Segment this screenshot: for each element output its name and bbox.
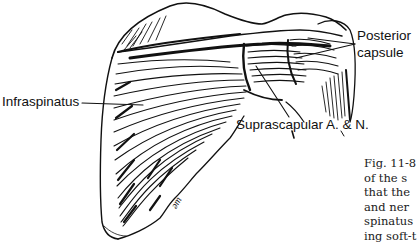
- posterior-capsule-label: Posterior capsule: [357, 27, 411, 61]
- caption-line: Fig. 11-8: [364, 156, 419, 171]
- spine-lower-edge: [118, 30, 342, 52]
- posterior-capsule-label-line1: Posterior: [357, 27, 411, 44]
- caption-line: of the s: [364, 171, 419, 186]
- caption-line: spinatus: [364, 214, 419, 229]
- figure-caption: Fig. 11-8 of the s that the and ner spin…: [364, 156, 419, 244]
- suprascapular-label: Suprascapular A. & N.: [236, 118, 369, 132]
- suprascapular-leader: [256, 66, 289, 117]
- scapula-medial-border: [100, 58, 118, 239]
- caption-line: that the: [364, 185, 419, 200]
- caption-line: ing soft-t: [364, 229, 419, 244]
- caption-line: and ner: [364, 200, 419, 215]
- posterior-capsule-label-line2: capsule: [357, 44, 411, 61]
- infraspinatus-label: Infraspinatus: [2, 95, 79, 109]
